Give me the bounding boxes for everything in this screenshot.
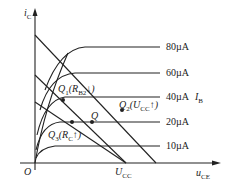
curve-label-20: 20µA xyxy=(166,117,189,127)
y-axis-label: iC xyxy=(24,8,31,21)
x-axis-arrow-icon xyxy=(212,161,221,166)
q-label: Q xyxy=(91,111,98,121)
q2-label: Q2(UCC↑) xyxy=(119,100,158,113)
q1-label: Q1(RB2↓) xyxy=(58,84,95,97)
point-q1 xyxy=(61,98,65,102)
y-axis-arrow-icon xyxy=(33,8,38,16)
x-axis-label: uCE xyxy=(196,168,210,181)
point-q3 xyxy=(70,120,74,124)
characteristics-plot xyxy=(0,0,225,182)
curve-label-80: 80µA xyxy=(166,42,189,52)
ucc-label: UCC xyxy=(115,167,132,180)
q3-label: Q3(RC↑) xyxy=(48,130,81,143)
curve-label-40: 40µA xyxy=(166,92,189,102)
curve-label-60: 60µA xyxy=(166,68,189,78)
ib-label: IB xyxy=(195,92,203,105)
curve-label-10: 10µA xyxy=(166,141,189,151)
origin-label: O xyxy=(24,167,31,177)
